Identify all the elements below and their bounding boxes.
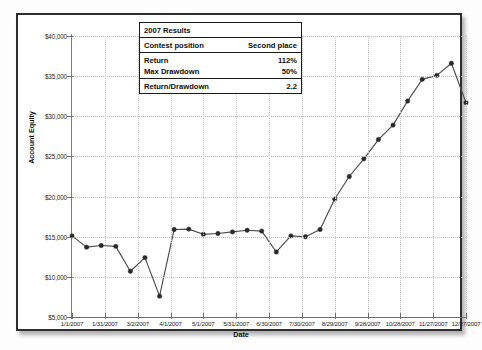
results-box: 2007 Results Contest position Second pla… <box>139 22 302 94</box>
series-data-point <box>347 174 351 178</box>
x-axis-tick <box>171 313 172 319</box>
results-value-return-drawdown: 2.2 <box>286 81 297 92</box>
y-axis-tick-label: $25,000 <box>25 153 67 160</box>
results-box-section-performance: Return 112% Max Drawdown 50% <box>140 52 301 78</box>
x-axis-tick <box>400 313 401 319</box>
results-value-return: 112% <box>278 55 297 66</box>
results-key-max-drawdown: Max Drawdown <box>144 66 199 77</box>
results-box-title: 2007 Results <box>140 23 301 37</box>
x-axis-tick <box>368 313 369 319</box>
x-axis-tick <box>236 313 237 319</box>
y-axis-tick-label: $20,000 <box>25 193 67 200</box>
x-axis-tick <box>203 313 204 319</box>
x-axis-tick-label: 5/31/2007 <box>223 320 249 327</box>
series-data-point <box>216 231 220 235</box>
y-axis-tick <box>67 197 73 198</box>
series-data-point <box>420 77 424 81</box>
series-data-point <box>187 227 191 231</box>
y-axis-tick-label: $10,000 <box>25 273 67 280</box>
x-axis-tick-label: 1/31/2007 <box>92 320 118 327</box>
series-data-point <box>172 227 176 231</box>
series-data-point <box>376 137 380 141</box>
x-axis-tick-label: 1/1/2007 <box>61 320 84 327</box>
series-data-point <box>143 255 147 259</box>
y-axis-tick <box>67 156 73 157</box>
scanned-page-background: Account Equity $5,000$10,000$15,000$20,0… <box>0 0 482 350</box>
x-axis-tick <box>335 313 336 319</box>
gridline-vertical <box>368 36 369 317</box>
gridline-vertical <box>105 36 106 317</box>
x-axis-tick <box>138 313 139 319</box>
y-axis-tick-label: $35,000 <box>25 73 67 80</box>
results-row-return: Return 112% <box>140 55 301 66</box>
results-row-return-drawdown: Return/Drawdown 2.2 <box>140 81 301 92</box>
series-data-point <box>157 294 161 298</box>
x-axis-tick-label: 4/1/2007 <box>159 320 182 327</box>
gridline-vertical <box>466 36 467 317</box>
y-axis-tick <box>67 277 73 278</box>
x-axis-tick-label: 9/28/2007 <box>355 320 381 327</box>
results-row-contest-position: Contest position Second place <box>140 40 301 51</box>
y-axis-tick <box>67 76 73 77</box>
x-axis-tick <box>466 313 467 319</box>
x-axis-tick-label: 12/27/2007 <box>452 320 481 327</box>
series-data-point <box>99 243 103 247</box>
results-key-return: Return <box>144 55 168 66</box>
x-axis-tick <box>433 313 434 319</box>
x-axis-tick-label: 11/27/2007 <box>419 320 448 327</box>
series-data-point <box>274 250 278 254</box>
series-data-point <box>230 230 234 234</box>
y-axis-tick-labels: $5,000$10,000$15,000$20,000$25,000$30,00… <box>22 15 67 333</box>
x-axis-tick-label: 8/29/2007 <box>322 320 348 327</box>
y-axis-tick-label: $15,000 <box>25 233 67 240</box>
results-value-contest-position: Second place <box>248 40 297 51</box>
x-axis-tick <box>105 313 106 319</box>
gridline-vertical <box>335 36 336 317</box>
y-axis-tick-label: $40,000 <box>25 33 67 40</box>
series-data-point <box>405 99 409 103</box>
y-axis-tick <box>67 116 73 117</box>
gridline-vertical <box>433 36 434 317</box>
x-axis-title: Date <box>18 330 464 339</box>
series-data-point <box>449 61 453 65</box>
results-key-contest-position: Contest position <box>144 40 204 51</box>
x-axis-tick-label: 6/30/2007 <box>256 320 282 327</box>
results-value-max-drawdown: 50% <box>282 66 297 77</box>
x-axis-tick <box>269 313 270 319</box>
series-data-point <box>245 228 249 232</box>
series-data-point <box>391 123 395 127</box>
results-box-section-position: Contest position Second place <box>140 37 301 52</box>
chart-frame: Account Equity $5,000$10,000$15,000$20,0… <box>16 13 462 331</box>
results-box-section-ratio: Return/Drawdown 2.2 <box>140 78 301 93</box>
y-axis-tick <box>67 36 73 37</box>
series-data-point <box>260 229 264 233</box>
x-axis-tick <box>72 313 73 319</box>
series-data-point <box>84 245 88 249</box>
x-axis-tick-label: 5/1/2007 <box>192 320 215 327</box>
series-data-point <box>114 244 118 248</box>
x-axis-tick-label: 7/30/2007 <box>289 320 315 327</box>
gridline-vertical <box>400 36 401 317</box>
x-axis-tick-label: 3/2/2007 <box>126 320 149 327</box>
x-axis-tick-label: 10/28/2007 <box>386 320 415 327</box>
x-axis-tick <box>302 313 303 319</box>
results-row-max-drawdown: Max Drawdown 50% <box>140 66 301 77</box>
results-key-return-drawdown: Return/Drawdown <box>144 81 209 92</box>
y-axis-tick <box>67 237 73 238</box>
series-data-point <box>128 269 132 273</box>
series-data-point <box>318 227 322 231</box>
y-axis-tick-label: $30,000 <box>25 113 67 120</box>
